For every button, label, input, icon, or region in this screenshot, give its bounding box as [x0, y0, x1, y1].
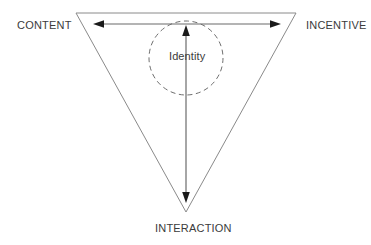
- vertex-label-incentive: INCENTIVE: [306, 19, 366, 32]
- diagram-canvas: CONTENT INCENTIVE INTERACTION Identity: [0, 0, 371, 245]
- arrow-head-down: [182, 192, 190, 203]
- arrow-head-left: [93, 20, 104, 28]
- arrow-head-up: [182, 25, 190, 36]
- arrow-head-right: [270, 20, 281, 28]
- center-label-identity: Identity: [169, 50, 205, 63]
- vertex-label-interaction: INTERACTION: [155, 222, 232, 235]
- diagram-graphics: [0, 0, 371, 245]
- vertex-label-content: CONTENT: [17, 19, 72, 32]
